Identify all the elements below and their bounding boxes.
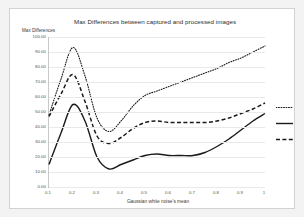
gridline — [49, 127, 265, 128]
y-tick-label: 10.00 — [24, 170, 46, 174]
x-tick-label: 0.4 — [110, 190, 130, 195]
x-tick-label: 0.2 — [62, 190, 82, 195]
legend-swatch-solid — [276, 111, 293, 114]
gridline — [49, 37, 265, 38]
x-tick-label: 0.3 — [86, 190, 106, 195]
gridline — [49, 67, 265, 68]
legend-swatch-dashed — [276, 127, 293, 130]
gridline — [49, 187, 265, 188]
chart-legend — [276, 92, 304, 138]
gridline — [49, 97, 265, 98]
y-axis-title: Max Differences — [22, 28, 55, 33]
gridline — [49, 52, 265, 53]
x-tick-label: 0.1 — [38, 190, 58, 195]
x-tick-label: 0.6 — [158, 190, 178, 195]
chart-figure: Max Differences between captured and pro… — [0, 0, 304, 217]
y-tick-label: 40.00 — [24, 125, 46, 129]
y-tick-label: 90.00 — [24, 50, 46, 54]
gridline — [49, 112, 265, 113]
y-tick-label: 70.00 — [24, 80, 46, 84]
x-tick-label: 0.5 — [134, 190, 154, 195]
y-tick-label: 80.00 — [24, 65, 46, 69]
gridline — [49, 82, 265, 83]
y-tick-label: 50.00 — [24, 110, 46, 114]
y-tick-label: 30.00 — [24, 140, 46, 144]
plot-area — [48, 37, 265, 188]
y-tick-label: 60.00 — [24, 95, 46, 99]
legend-item[interactable] — [276, 108, 304, 117]
y-tick-label: 0.00 — [24, 185, 46, 189]
series-dotted — [49, 46, 265, 132]
y-tick-label: 20.00 — [24, 155, 46, 159]
x-tick-label: 1 — [254, 190, 274, 195]
x-axis-tick-labels: 0.10.20.30.40.50.60.70.80.91 — [48, 190, 264, 198]
x-tick-label: 0.8 — [206, 190, 226, 195]
series-solid — [49, 104, 265, 169]
y-axis-tick-labels: 0.0010.0020.0030.0040.0050.0060.0070.008… — [22, 37, 46, 187]
gridline — [49, 172, 265, 173]
legend-item[interactable] — [276, 124, 304, 133]
legend-item[interactable] — [276, 92, 304, 101]
legend-swatch-dotted — [276, 95, 293, 98]
x-axis-title: Gaussian white noise's mean — [46, 199, 270, 204]
y-tick-label: 100.00 — [24, 35, 46, 39]
x-tick-label: 0.7 — [182, 190, 202, 195]
chart-title: Max Differences between captured and pro… — [50, 18, 260, 25]
chart-card: Max Differences between captured and pro… — [9, 8, 295, 209]
gridline — [49, 142, 265, 143]
x-tick-label: 0.9 — [230, 190, 250, 195]
gridline — [49, 157, 265, 158]
series-dashed — [49, 74, 265, 143]
